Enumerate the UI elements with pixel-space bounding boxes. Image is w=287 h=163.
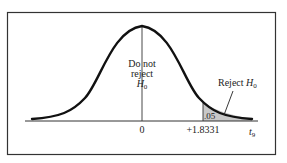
reject-h0-label: Reject H0 [218,78,257,91]
tick-label-zero: 0 [140,125,145,135]
axis-label: t9 [249,127,255,140]
reject-pointer [224,91,233,115]
h0-label: H0 [137,79,148,92]
tail-area-label: .05 [204,111,215,121]
tick-label-critical: +1.8331 [186,125,219,135]
